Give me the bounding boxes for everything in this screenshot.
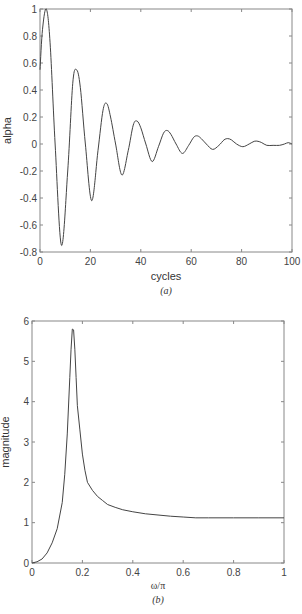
y-tick-label: 2 [23, 477, 29, 488]
x-tick-label: 100 [284, 256, 301, 267]
plot-b: 00.20.40.60.81 0123456 ω/π magnitude (b) [0, 316, 287, 607]
x-tick-label: 20 [85, 256, 97, 267]
plot-a-caption: (a) [160, 285, 172, 297]
x-tick-label: 0.4 [126, 567, 140, 578]
x-tick-label: 0.8 [227, 567, 241, 578]
plot-a-y-axis-label: alpha [1, 116, 13, 144]
plot-b-caption: (b) [152, 594, 164, 606]
plot-a-x-axis-label: cycles [151, 270, 182, 282]
x-tick-label: 1 [281, 567, 287, 578]
y-tick-label: 1 [23, 517, 29, 528]
y-tick-label: 4 [23, 396, 29, 407]
plot-a: 020406080100 -0.8-0.6-0.4-0.200.20.40.60… [1, 4, 301, 298]
plot-a-x-ticks: 020406080100 [37, 9, 301, 267]
y-tick-label: 0.8 [23, 31, 37, 42]
x-tick-label: 0 [29, 567, 35, 578]
y-tick-label: 3 [23, 437, 29, 448]
y-tick-label: -0.8 [20, 247, 38, 258]
x-tick-label: 80 [236, 256, 248, 267]
plot-b-x-ticks: 00.20.40.60.81 [29, 321, 287, 578]
y-tick-label: 0.4 [23, 85, 37, 96]
y-tick-label: 0 [23, 558, 29, 569]
x-tick-label: 0 [37, 256, 43, 267]
x-tick-label: 0.6 [176, 567, 190, 578]
plot-b-y-axis-label: magnitude [0, 416, 11, 467]
plot-b-series-line [32, 329, 284, 563]
y-tick-label: -0.4 [20, 193, 38, 204]
plot-b-axes-frame [32, 321, 284, 563]
y-tick-label: 6 [23, 316, 29, 327]
x-tick-label: 0.2 [75, 567, 89, 578]
y-tick-label: 0.6 [23, 58, 37, 69]
plot-a-series-line [40, 9, 292, 246]
x-tick-label: 60 [186, 256, 198, 267]
plot-a-y-ticks: -0.8-0.6-0.4-0.200.20.40.60.81 [20, 4, 292, 258]
y-tick-label: -0.2 [20, 166, 38, 177]
figure: 020406080100 -0.8-0.6-0.4-0.200.20.40.60… [0, 0, 302, 614]
y-tick-label: -0.6 [20, 220, 38, 231]
y-tick-label: 0 [31, 139, 37, 150]
plot-b-x-axis-label: ω/π [151, 580, 165, 591]
y-tick-label: 0.2 [23, 112, 37, 123]
x-tick-label: 40 [135, 256, 147, 267]
y-tick-label: 1 [31, 4, 37, 15]
plot-b-y-ticks: 0123456 [23, 316, 284, 569]
y-tick-label: 5 [23, 356, 29, 367]
